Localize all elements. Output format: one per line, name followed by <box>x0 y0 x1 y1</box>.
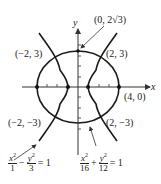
ellipse-equation: x216 + y212 = 1 <box>80 152 123 173</box>
label-lower-left: (−2, −3) <box>8 118 41 128</box>
x-axis-label: x <box>151 82 155 92</box>
label-upper-left: (−2, 3) <box>15 49 42 59</box>
y-axis-label: y <box>73 18 77 28</box>
top-vertex-leader <box>81 26 104 48</box>
label-lower-right: (2, −3) <box>106 118 133 128</box>
label-top-vertex: (0, 2√3) <box>94 15 126 25</box>
hyperbola-equation: x21 − y23 = 1 <box>8 152 51 173</box>
ellipse-leader <box>90 127 96 146</box>
label-right-vertex: (4, 0) <box>124 92 146 102</box>
label-upper-right: (2, 3) <box>106 49 128 59</box>
